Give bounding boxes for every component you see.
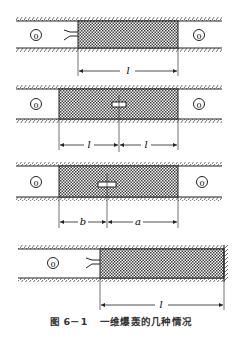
detonation-diagram: 0 0 l 0 0 l l: [0, 0, 242, 341]
panel-3: 0 0 b a: [16, 162, 222, 228]
explosive-charge: [59, 166, 178, 197]
explosive-charge: [78, 21, 178, 48]
top-wall-hatch: [16, 17, 222, 21]
rigid-wall-hatch: [224, 245, 228, 281]
dimension-label-l-left: l: [87, 139, 90, 150]
dimension-label-l: l: [159, 299, 162, 310]
panel-4: 0 l: [18, 245, 228, 310]
caption-title: 一维爆轰的几种情况: [100, 316, 193, 327]
caption-number: 图 6－1: [50, 316, 88, 327]
region-0-left-label: 0: [50, 260, 55, 269]
dimension-label-l-right: l: [144, 139, 147, 150]
detonator-icon: [64, 30, 78, 40]
figure-caption: 图 6－1一维爆轰的几种情况: [0, 314, 242, 328]
dimension-label-a: a: [135, 216, 141, 227]
explosive-charge: [100, 249, 224, 278]
detonator-icon: [86, 258, 100, 268]
dimension-label-b: b: [80, 216, 86, 227]
bottom-wall-hatch: [16, 48, 222, 52]
dimension-label-l: l: [126, 65, 129, 76]
region-0-right-label: 0: [199, 179, 204, 188]
region-0-left-label: 0: [33, 101, 38, 110]
panel-1: 0 0 l: [16, 17, 222, 76]
region-0-right-label: 0: [196, 101, 201, 110]
region-0-left-label: 0: [33, 32, 38, 41]
region-0-right-label: 0: [196, 32, 201, 41]
region-0-left-label: 0: [33, 179, 38, 188]
panel-2: 0 0 l l: [16, 85, 222, 152]
